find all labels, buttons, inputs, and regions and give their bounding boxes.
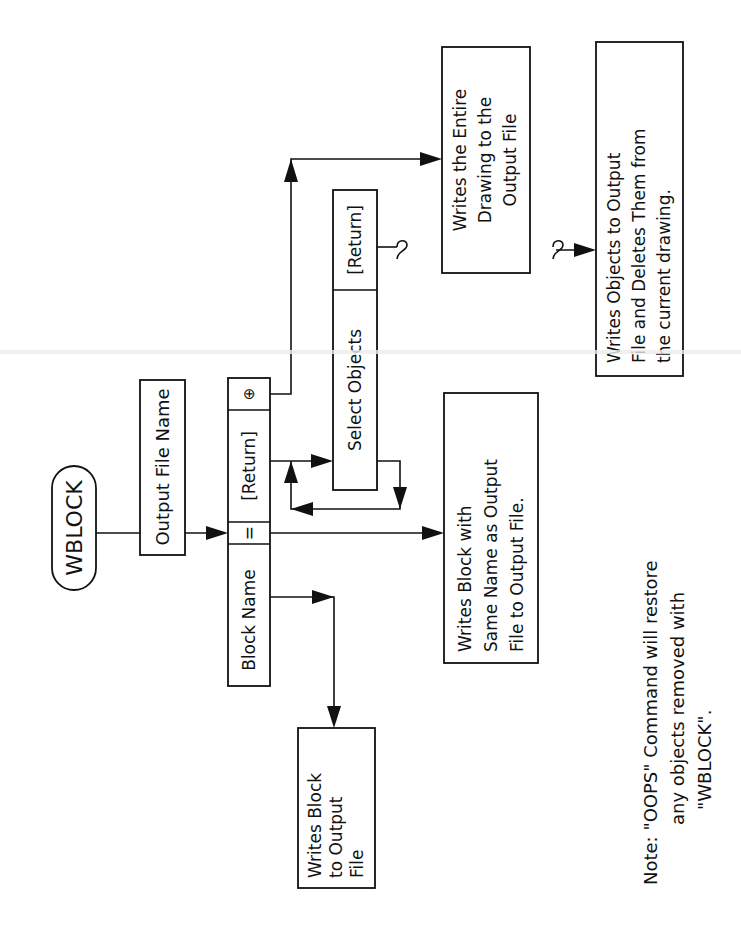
writes-block-line-1: Writes Block: [305, 773, 325, 878]
start-label: WBLOCK: [62, 480, 87, 576]
asterisk-option: ⊕: [240, 388, 258, 401]
writes-block-line-2: to Output: [326, 796, 346, 878]
writes-same-name-line-3: File to Output File.: [507, 497, 527, 652]
writes-entire-line-1: Writes the Entire: [450, 89, 470, 231]
writes-entire-line-3: Output File: [500, 114, 520, 207]
output-file-name-node: Output File Name: [140, 380, 185, 555]
writes-same-name-node: Writes Block with Same Name as Output Fi…: [444, 393, 538, 663]
arrowhead-icon: [284, 461, 298, 483]
block-name-option: Block Name: [239, 569, 259, 671]
offpage-connector-icon: [397, 241, 407, 259]
arrowhead-icon: [420, 152, 442, 166]
note-line-3: "WBLOCK".: [694, 710, 715, 810]
wblock-flowchart: WBLOCK Output File Name Block Name = [Re…: [0, 0, 741, 944]
equals-option: =: [239, 526, 259, 540]
connector-blockname-to-writes-block: [270, 597, 334, 722]
writes-objects-line-3: the current drawing.: [654, 189, 674, 363]
arrowhead-icon: [291, 502, 313, 516]
writes-objects-line-1: Writes Objects to Output: [604, 152, 624, 363]
select-return-option: [Return]: [345, 205, 365, 275]
note-line-2: any objects removed with: [667, 592, 688, 825]
start-node-wblock: WBLOCK: [52, 466, 96, 590]
arrowhead-icon: [422, 526, 444, 540]
writes-objects-node: Writes Objects to Output File and Delete…: [596, 42, 683, 376]
note-block: Note: "OOPS" Command will restore any ob…: [640, 560, 715, 885]
arrowhead-icon: [327, 706, 341, 728]
arrowhead-icon: [284, 159, 298, 182]
note-line-1: Note: "OOPS" Command will restore: [640, 560, 661, 885]
arrowhead-icon: [312, 590, 334, 604]
arrowhead-icon: [206, 526, 228, 540]
return-option: [Return]: [239, 431, 259, 501]
output-file-name-label: Output File Name: [152, 388, 173, 545]
select-row-node: Select Objects [Return]: [333, 190, 377, 490]
arrowhead-icon: [393, 487, 407, 509]
arrowhead-icon: [311, 454, 333, 468]
writes-block-node: Writes Block to Output File: [298, 728, 375, 888]
writes-block-line-3: File: [347, 850, 367, 878]
paper-fold-line: [0, 350, 741, 354]
writes-same-name-line-1: Writes Block with: [455, 505, 475, 652]
arrowhead-icon: [574, 243, 596, 257]
writes-entire-line-2: Drawing to the: [475, 97, 495, 223]
select-objects-option: Select Objects: [345, 329, 365, 451]
prompt-row-node: Block Name = [Return] ⊕: [228, 378, 270, 686]
writes-same-name-line-2: Same Name as Output: [481, 459, 501, 652]
writes-objects-line-2: File and Deletes Them from: [629, 129, 649, 364]
writes-entire-node: Writes the Entire Drawing to the Output …: [442, 47, 530, 273]
